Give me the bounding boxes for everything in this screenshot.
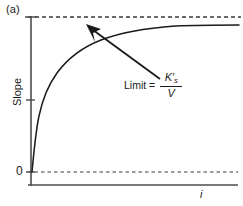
plot-area: [0, 0, 243, 206]
annotation-arrowhead-icon: [86, 24, 101, 42]
origin-zero-label: 0: [16, 164, 23, 178]
y-axis-label: Slope: [11, 62, 23, 122]
limit-fraction: K′s V: [160, 72, 182, 99]
slope-curve: [32, 25, 239, 172]
limit-annotation-lead-text: Limit =: [124, 79, 155, 91]
figure-panel: (a) Slope 0 i Limit = K′s V: [0, 0, 243, 206]
limit-fraction-denominator: V: [165, 87, 178, 99]
x-axis-label: i: [200, 188, 202, 200]
limit-numerator-subscript: s: [174, 76, 178, 85]
limit-annotation: Limit = K′s V: [124, 72, 182, 99]
limit-fraction-numerator: K′s: [162, 72, 181, 86]
limit-numerator-symbol: K: [165, 71, 172, 83]
